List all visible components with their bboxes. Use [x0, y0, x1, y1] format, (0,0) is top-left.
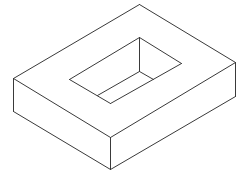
background [0, 0, 241, 180]
isometric-block-drawing [0, 0, 241, 180]
